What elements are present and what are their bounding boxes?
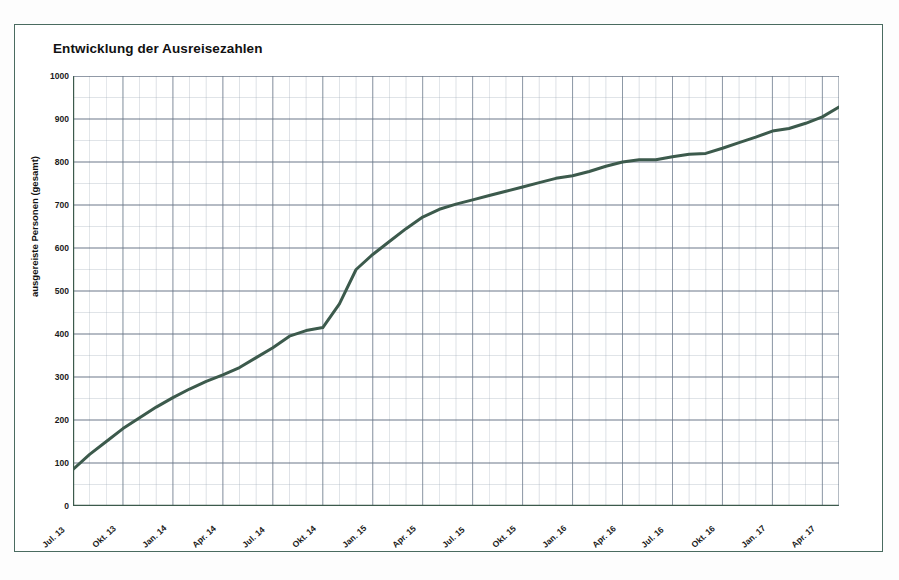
x-tick-label: Jul. 14 bbox=[240, 525, 266, 550]
y-tick-label: 1000 bbox=[35, 71, 69, 81]
chart-frame: Entwicklung der Ausreisezahlen ausgereis… bbox=[14, 24, 883, 552]
line-chart-svg bbox=[73, 76, 839, 506]
x-tick-label: Apr. 17 bbox=[789, 523, 817, 549]
y-tick-label: 800 bbox=[35, 157, 69, 167]
plot-area bbox=[73, 76, 839, 506]
y-tick-label: 500 bbox=[35, 286, 69, 296]
y-tick-label: 400 bbox=[35, 329, 69, 339]
x-tick-label: Jul. 13 bbox=[40, 525, 66, 550]
x-tick-label: Apr. 16 bbox=[590, 523, 618, 549]
y-tick-label: 900 bbox=[35, 114, 69, 124]
x-tick-label: Apr. 14 bbox=[190, 523, 218, 549]
y-tick-label: 600 bbox=[35, 243, 69, 253]
x-tick-label: Okt. 13 bbox=[90, 523, 118, 549]
x-tick-label: Jul. 15 bbox=[440, 525, 466, 550]
y-tick-label: 0 bbox=[35, 501, 69, 511]
y-tick-label: 700 bbox=[35, 200, 69, 210]
x-tick-label: Okt. 14 bbox=[290, 523, 318, 549]
y-tick-label: 300 bbox=[35, 372, 69, 382]
x-tick-label: Jan. 16 bbox=[540, 523, 568, 550]
scanned-page: Entwicklung der Ausreisezahlen ausgereis… bbox=[0, 0, 899, 580]
x-tick-label: Jul. 16 bbox=[640, 525, 666, 550]
y-tick-label: 200 bbox=[35, 415, 69, 425]
y-axis-tick-labels: 01002003004005006007008009001000 bbox=[29, 76, 69, 506]
x-axis-tick-labels: Jul. 13Okt. 13Jan. 14Apr. 14Jul. 14Okt. … bbox=[73, 510, 839, 570]
x-tick-label: Jan. 14 bbox=[140, 523, 168, 550]
x-tick-label: Jan. 15 bbox=[340, 523, 368, 550]
x-tick-label: Okt. 15 bbox=[490, 523, 518, 549]
x-tick-label: Okt. 16 bbox=[690, 523, 718, 549]
chart-title: Entwicklung der Ausreisezahlen bbox=[53, 41, 263, 56]
y-tick-label: 100 bbox=[35, 458, 69, 468]
x-tick-label: Jan. 17 bbox=[740, 523, 768, 550]
x-tick-label: Apr. 15 bbox=[390, 523, 418, 549]
